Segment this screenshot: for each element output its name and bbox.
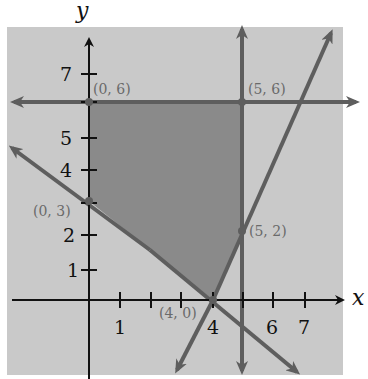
- y-axis-label: y: [75, 0, 89, 23]
- y-tick-label-7: 7: [60, 63, 72, 85]
- x-tick-label-7: 7: [298, 316, 310, 338]
- x-axis-label: x: [352, 285, 365, 310]
- x-tick-label-4: 4: [207, 316, 219, 338]
- y-tick-label-4: 4: [60, 159, 72, 181]
- y-tick-label-1: 1: [67, 259, 79, 281]
- x-tick-label-6: 6: [266, 316, 278, 338]
- vertex-label-5-2: (5, 2): [249, 223, 287, 239]
- x-tick-label-1: 1: [114, 316, 126, 338]
- linear-programming-graph: 1 4 6 7 7 5 4 2 1 x y (0, 6) (5, 6) (5, …: [0, 0, 368, 379]
- y-tick-label-2: 2: [63, 224, 75, 246]
- vertex-label-5-6: (5, 6): [248, 81, 286, 97]
- vertex-label-4-0: (4, 0): [159, 305, 197, 321]
- y-tick-label-5: 5: [60, 127, 72, 149]
- vertex-label-0-6: (0, 6): [93, 81, 131, 97]
- vertex-label-0-3: (0, 3): [33, 203, 71, 219]
